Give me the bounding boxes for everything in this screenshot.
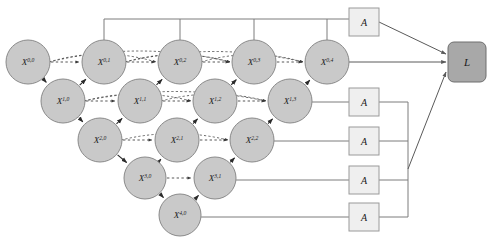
decoder-edge-9 bbox=[230, 158, 234, 162]
encoder-edge-3 bbox=[118, 155, 127, 163]
node-x-0-0: X0,0 bbox=[6, 40, 50, 84]
output-edge-top-box-to-loss bbox=[379, 22, 446, 54]
node-x-3-1: X3,1 bbox=[194, 157, 236, 199]
supervision-box-3-label: A bbox=[360, 136, 368, 147]
long-skip-edge-2 bbox=[49, 51, 230, 62]
node-x-2-1: X2,1 bbox=[155, 118, 199, 162]
node-x-0-3: X0,3 bbox=[232, 40, 276, 84]
node-x-2-0: X2,0 bbox=[78, 118, 122, 162]
supervision-box-5: A bbox=[349, 203, 379, 231]
decoder-edge-8 bbox=[159, 159, 161, 161]
supervision-box-1: A bbox=[349, 8, 379, 36]
architecture-diagram: AAAAA X0,0X0,1X0,2X0,3X0,4X1,0X1,1X1,2X1… bbox=[0, 0, 492, 239]
supervision-box-4: A bbox=[349, 166, 379, 194]
node-layer: X0,0X0,1X0,2X0,3X0,4X1,0X1,1X1,2X1,3X2,0… bbox=[6, 40, 349, 236]
supervision-box-4-label: A bbox=[360, 175, 368, 186]
supervision-box-2: A bbox=[349, 88, 379, 116]
loss-box-layer: L bbox=[448, 42, 486, 82]
node-x-1-0: X1,0 bbox=[41, 79, 85, 123]
node-x-4-0: X4,0 bbox=[159, 194, 201, 236]
supervision-box-5-label: A bbox=[360, 212, 368, 223]
branch-line-layer bbox=[201, 102, 408, 217]
supervision-box-3: A bbox=[349, 127, 379, 155]
node-x-0-1: X0,1 bbox=[82, 40, 126, 84]
output-edge-right-bus-to-loss bbox=[408, 72, 446, 169]
node-x-0-2: X0,2 bbox=[158, 40, 202, 84]
encoder-edge-1 bbox=[43, 79, 46, 82]
decoder-edge-7 bbox=[268, 119, 273, 124]
decoder-edge-6 bbox=[193, 119, 198, 124]
decoder-edge-5 bbox=[116, 118, 122, 123]
decoder-edge-10 bbox=[195, 195, 198, 199]
node-x-1-1: X1,1 bbox=[118, 79, 162, 123]
supervision-box-1-label: A bbox=[360, 17, 368, 28]
node-x-1-3: X1,3 bbox=[268, 79, 312, 123]
encoder-edge-4 bbox=[160, 194, 163, 198]
decoder-edge-4 bbox=[306, 80, 310, 84]
node-x-3-0: X3,0 bbox=[124, 157, 166, 199]
loss-box: L bbox=[448, 42, 486, 82]
supervision-box-layer: AAAAA bbox=[349, 8, 379, 231]
encoder-edge-2 bbox=[79, 118, 83, 122]
decoder-edge-1 bbox=[80, 79, 86, 85]
node-x-1-2: X1,2 bbox=[193, 79, 237, 123]
diagram-canvas: AAAAA X0,0X0,1X0,2X0,3X0,4X1,0X1,1X1,2X1… bbox=[0, 0, 492, 239]
node-x-0-4: X0,4 bbox=[305, 40, 349, 84]
node-x-2-2: X2,2 bbox=[230, 118, 274, 162]
long-skip-edge-7 bbox=[84, 92, 266, 102]
loss-box-label: L bbox=[463, 56, 470, 68]
decoder-edge-2 bbox=[156, 79, 162, 84]
supervision-box-2-label: A bbox=[360, 97, 368, 108]
decoder-edge-3 bbox=[231, 80, 236, 85]
